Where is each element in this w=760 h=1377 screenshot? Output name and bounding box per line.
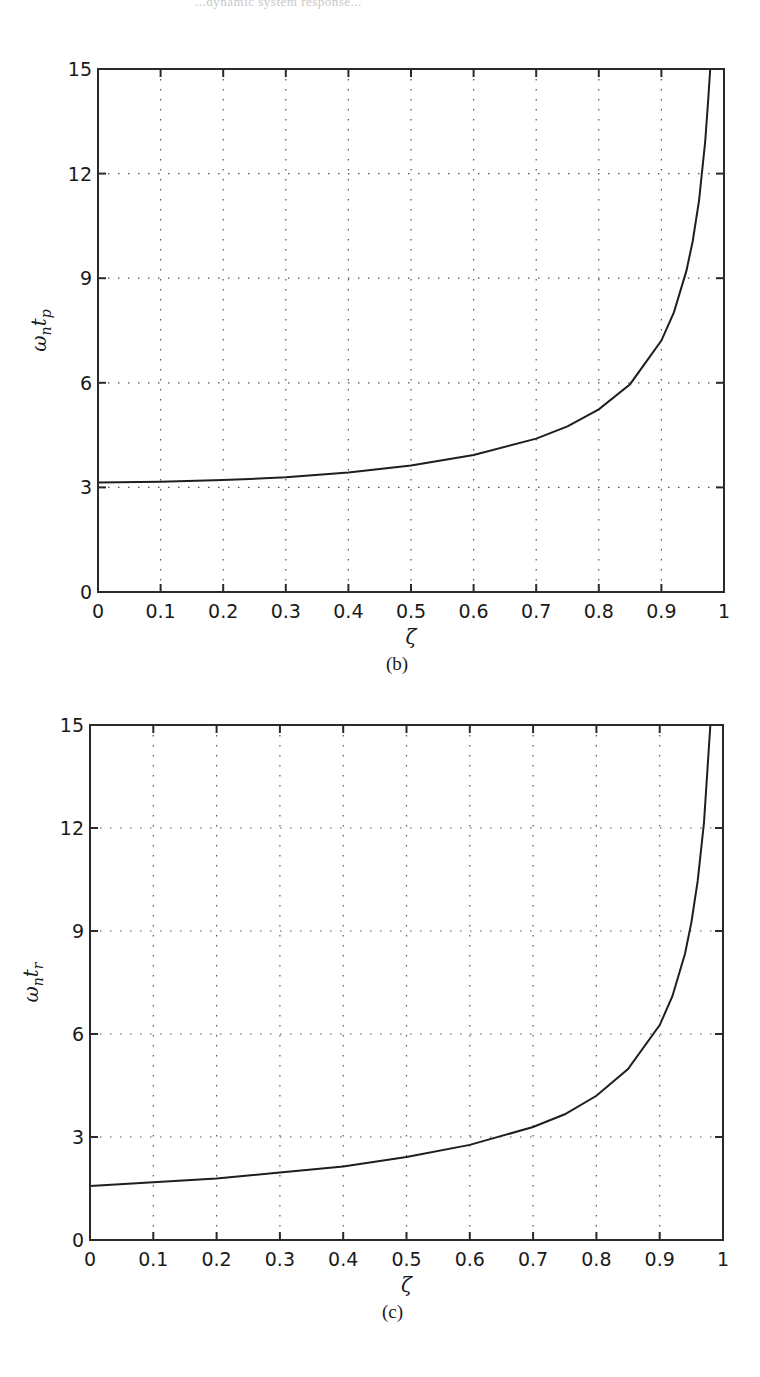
- x-tick-label: 0.9: [645, 1248, 675, 1270]
- x-tick-label: 0.4: [328, 1248, 358, 1270]
- y-tick-label: 0: [72, 1229, 84, 1251]
- x-tick-label: 0: [84, 1248, 96, 1270]
- y-tick-label: 9: [72, 920, 84, 942]
- x-tick-label: 0.6: [455, 1248, 485, 1270]
- x-tick-label: 0.5: [391, 1248, 421, 1270]
- y-tick-label: 3: [72, 1126, 84, 1148]
- y-tick-label: 12: [60, 817, 84, 839]
- figure-caption: (c): [382, 1301, 403, 1323]
- y-axis-label: ωntr: [19, 961, 46, 1002]
- x-tick-label: 1: [717, 1248, 729, 1270]
- y-tick-label: 6: [72, 1023, 84, 1045]
- axis-ticks: [90, 725, 723, 1240]
- x-tick-label: 0.2: [201, 1248, 231, 1270]
- plot-frame: [90, 725, 723, 1240]
- x-tick-label: 0.3: [265, 1248, 295, 1270]
- y-tick-label: 15: [60, 714, 84, 736]
- x-tick-label: 0.7: [518, 1248, 548, 1270]
- x-tick-label: 0.8: [581, 1248, 611, 1270]
- gridlines: [90, 725, 723, 1240]
- x-tick-label: 0.1: [138, 1248, 168, 1270]
- data-curve: [90, 571, 715, 1187]
- x-axis-label: ζ: [401, 1273, 413, 1297]
- chart-rise-time: 00.10.20.30.40.50.60.70.80.9103691215ζωn…: [0, 0, 760, 1377]
